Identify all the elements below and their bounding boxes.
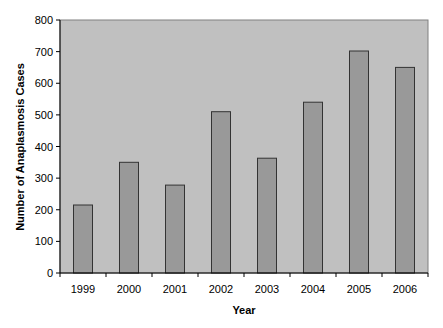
bar-2005 bbox=[350, 51, 369, 273]
y-tick-label: 800 bbox=[35, 14, 53, 26]
x-tick-label: 2005 bbox=[347, 283, 371, 295]
x-tick-label: 2001 bbox=[163, 283, 187, 295]
y-tick-label: 500 bbox=[35, 109, 53, 121]
y-axis: 0100200300400500600700800 bbox=[35, 14, 60, 279]
bar-2000 bbox=[120, 162, 139, 273]
x-tick-label: 2004 bbox=[301, 283, 325, 295]
y-axis-title: Number of Anaplasmosis Cases bbox=[14, 63, 26, 231]
x-tick-label: 2003 bbox=[255, 283, 279, 295]
x-tick-label: 2000 bbox=[117, 283, 141, 295]
x-tick-label: 2002 bbox=[209, 283, 233, 295]
bar-2002 bbox=[212, 112, 231, 273]
bar-2006 bbox=[396, 67, 415, 273]
y-tick-label: 100 bbox=[35, 235, 53, 247]
x-tick-label: 2006 bbox=[393, 283, 417, 295]
y-tick-label: 700 bbox=[35, 46, 53, 58]
plot-area bbox=[60, 20, 428, 273]
bar-chart: 0100200300400500600700800 19992000200120… bbox=[0, 0, 443, 328]
bar-2004 bbox=[304, 102, 323, 273]
bar-1999 bbox=[74, 205, 93, 273]
y-tick-label: 0 bbox=[47, 267, 53, 279]
x-tick-label: 1999 bbox=[71, 283, 95, 295]
plot-background bbox=[60, 20, 428, 273]
y-tick-label: 200 bbox=[35, 204, 53, 216]
y-tick-label: 400 bbox=[35, 141, 53, 153]
y-tick-label: 600 bbox=[35, 77, 53, 89]
y-tick-label: 300 bbox=[35, 172, 53, 184]
bar-2003 bbox=[258, 158, 277, 273]
x-axis-title: Year bbox=[232, 304, 256, 316]
bar-2001 bbox=[166, 185, 185, 273]
x-axis: 19992000200120022003200420052006 bbox=[60, 273, 428, 295]
